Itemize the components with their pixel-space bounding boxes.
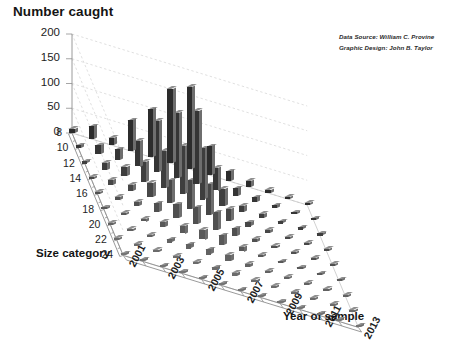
bar-front-face	[317, 313, 322, 315]
bar-front-face	[69, 129, 74, 133]
z-axis-title: Size category	[36, 247, 110, 259]
bar-front-face	[160, 265, 165, 267]
bar	[239, 247, 244, 252]
bar-front-face	[265, 190, 270, 193]
bar	[291, 292, 296, 294]
bar	[232, 273, 237, 276]
bar-front-face	[140, 259, 145, 261]
z-axis-tick-label: 14	[61, 172, 81, 184]
bar	[127, 229, 132, 231]
bar	[285, 197, 290, 199]
y-axis-tick-label: 150	[26, 51, 60, 63]
bar-front-face	[337, 279, 342, 281]
bar-front-face	[232, 228, 237, 236]
bar-side-face	[146, 217, 149, 221]
y-axis-tick-label: 200	[26, 26, 60, 38]
bar-front-face	[285, 237, 290, 239]
bar-front-face	[167, 239, 172, 242]
z-axis-tick-label: 16	[68, 187, 88, 199]
bar-front-face	[311, 258, 316, 260]
bar-front-face	[291, 252, 296, 254]
bar-front-face	[349, 310, 354, 312]
bar-front-face	[277, 301, 282, 303]
bar-front-face	[108, 223, 113, 225]
bar-side-face	[322, 272, 325, 276]
bar-front-face	[330, 304, 335, 306]
bar	[246, 181, 251, 187]
bar	[330, 264, 335, 266]
bar-side-face	[173, 87, 176, 163]
bar	[285, 237, 290, 239]
bar	[291, 252, 296, 254]
bar-front-face	[239, 247, 244, 252]
bar-side-face	[218, 166, 221, 190]
bar-side-face	[146, 160, 149, 181]
bar-front-face	[285, 197, 290, 199]
bar	[297, 267, 302, 269]
bar-side-face	[329, 247, 332, 251]
bar	[258, 255, 263, 257]
bar-front-face	[304, 243, 309, 245]
bar	[259, 214, 264, 218]
bar-front-face	[258, 255, 263, 257]
bar-side-face	[120, 148, 123, 160]
bar-side-face	[185, 224, 188, 233]
bar-side-face	[316, 257, 319, 261]
bar-side-face	[211, 248, 214, 255]
bar-side-face	[198, 206, 201, 224]
bar-front-face	[193, 207, 198, 224]
bar	[277, 301, 282, 303]
bar-front-face	[115, 197, 120, 200]
bar-side-face	[120, 195, 123, 200]
bar-front-face	[154, 203, 159, 212]
bar	[160, 265, 165, 267]
bar-side-face	[153, 108, 156, 157]
bar	[141, 219, 146, 222]
bar	[219, 283, 224, 285]
bar	[154, 203, 159, 212]
bar-front-face	[238, 289, 243, 291]
bar	[258, 295, 263, 297]
bar	[271, 286, 276, 288]
bar-front-face	[232, 273, 237, 276]
bar-side-face	[94, 125, 97, 139]
bar-side-face	[172, 238, 175, 243]
bar-front-face	[291, 292, 296, 294]
bar-front-face	[225, 255, 230, 261]
z-axis-tick-label: 20	[80, 218, 100, 230]
bar-front-face	[128, 185, 133, 191]
bar	[179, 271, 184, 273]
bar	[265, 230, 270, 233]
bar-side-face	[100, 191, 103, 195]
bar	[148, 109, 153, 157]
bar-front-face	[336, 319, 341, 321]
bar-front-face	[134, 244, 139, 246]
bar	[186, 244, 191, 248]
bar-side-face	[310, 201, 313, 205]
bar	[187, 87, 192, 169]
bar-front-face	[252, 197, 257, 202]
bar-side-face	[127, 165, 130, 175]
bar-front-face	[284, 277, 289, 279]
bar-front-face	[173, 204, 178, 218]
bar	[232, 228, 237, 236]
bar-side-face	[237, 271, 240, 276]
bar	[245, 264, 250, 267]
bar-front-face	[160, 222, 165, 227]
bar	[102, 163, 107, 170]
bar	[69, 129, 74, 133]
bar-front-face	[89, 126, 94, 139]
bar	[238, 289, 243, 291]
bar-front-face	[265, 230, 270, 233]
bar	[311, 218, 316, 220]
bar	[233, 188, 238, 196]
bar-side-face	[271, 188, 274, 193]
bar-front-face	[76, 145, 81, 148]
bar	[160, 222, 165, 227]
bar	[317, 313, 322, 315]
bar	[173, 256, 178, 258]
bar-front-face	[291, 212, 296, 214]
bar-front-face	[219, 283, 224, 285]
bar-side-face	[119, 237, 122, 241]
bar	[167, 89, 172, 163]
